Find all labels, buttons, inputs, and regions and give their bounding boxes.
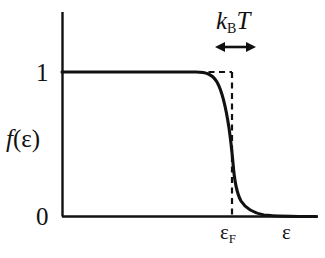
arrow-head-right-icon [246,42,256,52]
arrow-head-left-icon [215,42,225,52]
x-axis-title: ε [282,222,291,243]
y-axis-title-close-paren: ) [32,125,40,152]
boltzmann-subscript-b: B [227,21,236,36]
plot-canvas [0,0,325,258]
y-tick-label-one: 1 [36,60,49,85]
temperature-t-symbol: T [236,7,250,34]
y-axis-title: f(ε) [6,126,40,151]
fermi-dirac-figure: 1 0 f(ε) εF ε kBT [0,0,325,258]
thermal-width-arrow [215,42,256,52]
boltzmann-k-symbol: k [216,7,227,34]
y-tick-label-zero: 0 [36,204,49,229]
fermi-dirac-curve [62,72,316,217]
x-tick-label-fermi-energy: εF [220,222,236,243]
fermi-epsilon-symbol: ε [220,220,229,244]
fermi-subscript-f: F [229,231,236,246]
y-axis-title-epsilon: ε [21,125,32,152]
y-axis-title-f: f [6,125,13,152]
thermal-width-label: kBT [216,8,250,33]
